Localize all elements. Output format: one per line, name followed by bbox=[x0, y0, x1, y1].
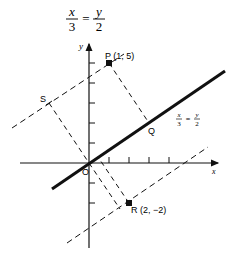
title-equals: = bbox=[82, 11, 89, 26]
origin-label: O bbox=[82, 167, 89, 177]
segment-r-main-line bbox=[98, 157, 129, 203]
title-y-numerator: y bbox=[94, 4, 102, 19]
svg-text:y: y bbox=[194, 111, 199, 119]
point-r-label: R (2, −2) bbox=[131, 205, 166, 215]
point-q-label: Q bbox=[148, 126, 155, 136]
title-y-denominator: 2 bbox=[96, 19, 103, 34]
segment-so bbox=[49, 103, 89, 163]
point-p-label: P (1, 5) bbox=[105, 51, 134, 61]
coordinate-diagram: x 3 = y 2 P (1, 5) bbox=[0, 0, 237, 262]
line-equation-label: x 3 = y 2 bbox=[176, 111, 200, 128]
main-line bbox=[52, 71, 225, 189]
svg-text:=: = bbox=[186, 115, 191, 124]
title-equation: x 3 = y 2 bbox=[66, 4, 105, 34]
svg-text:3: 3 bbox=[177, 120, 181, 128]
svg-text:2: 2 bbox=[195, 120, 199, 128]
svg-text:x: x bbox=[176, 111, 181, 119]
s-tick bbox=[46, 101, 52, 105]
segment-o-r-line bbox=[89, 163, 120, 209]
x-ticks bbox=[109, 157, 169, 163]
title-x-numerator: x bbox=[68, 4, 75, 19]
y-ticks bbox=[89, 63, 95, 203]
y-axis-label: y bbox=[78, 41, 83, 51]
parallel-line-through-r bbox=[67, 147, 208, 243]
title-x-denominator: 3 bbox=[69, 19, 76, 34]
x-axis-label: x bbox=[211, 167, 216, 176]
point-s-label: S bbox=[40, 94, 46, 104]
segment-pq bbox=[109, 63, 149, 123]
